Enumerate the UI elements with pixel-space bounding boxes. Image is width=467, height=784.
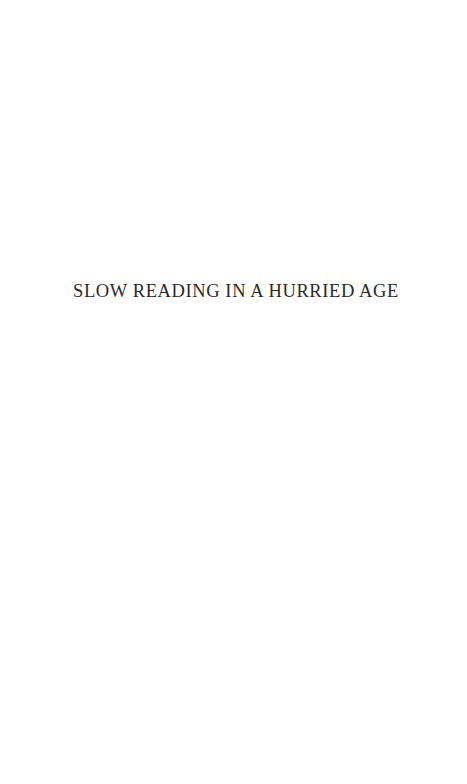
book-page: SLOW READING IN A HURRIED AGE [0, 0, 467, 784]
half-title: SLOW READING IN A HURRIED AGE [73, 280, 386, 302]
